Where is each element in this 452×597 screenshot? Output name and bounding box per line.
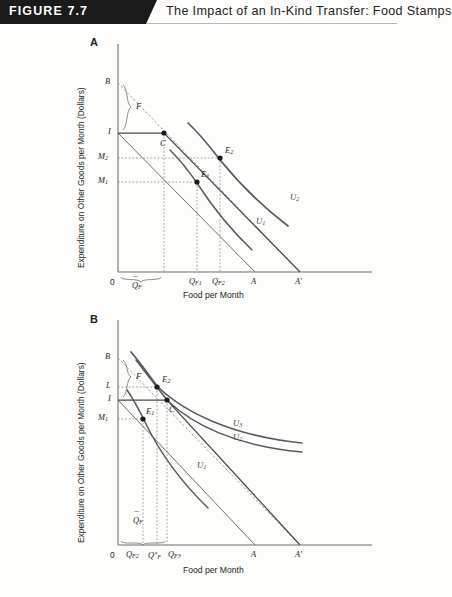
panel-b-indifference-curve-u1 bbox=[127, 390, 208, 508]
panel-b-ytick-m1: M1 bbox=[98, 413, 108, 422]
panel-b-ytick-l: L bbox=[106, 381, 111, 390]
panel-b-brace-f bbox=[123, 360, 131, 397]
panel-b-point-c bbox=[164, 397, 169, 402]
panel-b-curve-label-u3: U3 bbox=[233, 418, 242, 428]
panel-b-point-e1 bbox=[140, 416, 145, 421]
panel-b-curve-label-u1: U1 bbox=[197, 460, 206, 470]
panel-b-xtick-qfstar: Q*F bbox=[148, 550, 161, 560]
panel-b-indifference-curve-u2 bbox=[136, 360, 302, 452]
panel-b-point-e2 bbox=[154, 384, 159, 389]
panel-b-brace-label-f: F bbox=[136, 371, 141, 381]
panel-b-xtick-qf3: QF3 bbox=[168, 550, 181, 559]
panel-b-label-qfbar: ¯QF bbox=[133, 516, 143, 525]
panel-b-label-c: C bbox=[169, 404, 175, 414]
panel-b-cash-budget-line bbox=[118, 358, 300, 545]
panel-b-label-e2: E2 bbox=[162, 374, 170, 384]
panel-b-xtick-origin: 0 bbox=[110, 550, 115, 560]
panel-b-curve-label-u2: U2 bbox=[233, 432, 242, 442]
panel-b-indifference-curve-u3 bbox=[131, 352, 302, 443]
panel-b-xtick-a: A bbox=[251, 550, 256, 559]
panel-b-xtick-aprime: A' bbox=[295, 550, 302, 559]
panel-b-label-e1: E1 bbox=[146, 406, 154, 416]
panel-b-ytick-b: B bbox=[105, 352, 110, 361]
panel-b-ytick-i: I bbox=[108, 394, 111, 403]
panel-b-xtick-qf2: QF2 bbox=[126, 550, 139, 559]
